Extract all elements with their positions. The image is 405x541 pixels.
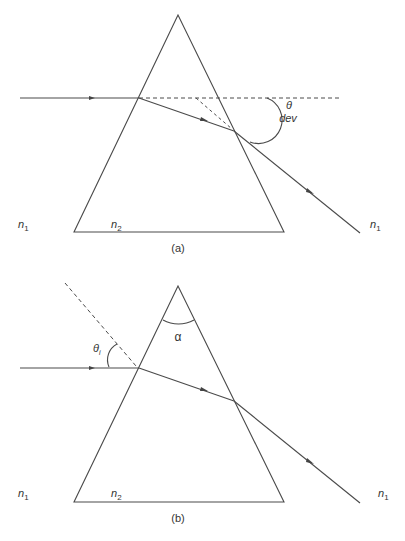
prism-diagram: θ dev n1 n2 n1 (a) θi α n1 n2 n1 (b) [0,0,405,541]
theta-label: θ [286,99,292,111]
n1-left-label-b: n1 [18,487,29,502]
arrow-icon [200,387,208,391]
exit-ray-b [234,401,360,503]
apex-angle-arc [163,320,194,324]
n1-right-label-b: n1 [378,487,389,502]
panel-b: θi α n1 n2 n1 (b) [18,283,389,524]
n1-left-label-a: n1 [18,218,29,233]
arrow-icon [89,96,95,100]
caption-b: (b) [171,512,184,524]
caption-a: (a) [171,242,184,254]
dev-label: dev [279,112,298,124]
arrow-icon [89,366,95,370]
incidence-angle-arc [108,344,117,367]
prism-a [74,15,284,232]
deviation-angle-arc [250,98,282,144]
refracted-ray-a [139,98,234,131]
panel-a: θ dev n1 n2 n1 (a) [18,15,381,254]
arrow-icon [200,117,208,121]
n1-right-label-a: n1 [370,218,381,233]
n2-label-a: n2 [111,218,122,233]
exit-ray-a [234,131,360,233]
alpha-label: α [175,330,182,344]
n2-label-b: n2 [111,487,122,502]
theta-i-label: θi [93,342,101,356]
prism-b [74,286,284,502]
refracted-ray-b [139,368,234,401]
